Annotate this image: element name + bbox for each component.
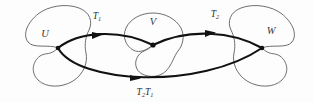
set-label-w: W <box>267 25 277 36</box>
node-dot-v <box>150 42 155 47</box>
map-label-t2: T2 <box>211 9 219 19</box>
node-dot-w <box>260 46 265 51</box>
transformation-composition-figure: U V W T1 T2 T2T1 <box>0 0 314 102</box>
set-label-v: V <box>150 16 158 27</box>
node-dot-u <box>56 46 61 51</box>
arc-t1 <box>58 34 153 48</box>
set-label-u: U <box>41 28 50 39</box>
figure-canvas: U V W T1 T2 T2T1 <box>0 0 314 102</box>
arc-t2t1 <box>58 48 262 77</box>
map-label-t1: T1 <box>93 11 101 21</box>
map-label-t2t1: T2T1 <box>137 87 154 97</box>
